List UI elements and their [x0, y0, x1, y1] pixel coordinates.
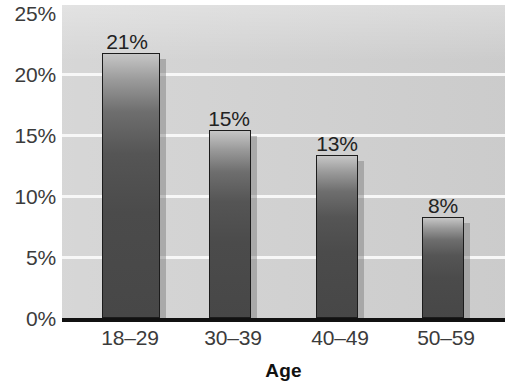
x-tick-label-40-49: 40–49 — [285, 327, 395, 348]
y-tick-label-15: 15% — [0, 125, 56, 146]
bar-30-39[interactable] — [209, 130, 251, 318]
bar-50-59[interactable] — [422, 217, 464, 318]
bar-chart: 25% 20% 15% 10% 5% 0% 21% 15% 13% 8% 18–… — [0, 0, 505, 391]
y-tick-label-0: 0% — [0, 308, 56, 329]
y-tick-label-5: 5% — [0, 247, 56, 268]
x-axis-line — [62, 318, 505, 322]
value-label-50-59: 8% — [388, 195, 498, 216]
x-tick-label-18-29: 18–29 — [75, 327, 185, 348]
bar-40-49[interactable] — [316, 155, 358, 318]
value-label-40-49: 13% — [282, 133, 392, 154]
value-label-18-29: 21% — [72, 31, 182, 52]
x-axis-title: Age — [62, 361, 505, 380]
x-tick-label-30-39: 30–39 — [178, 327, 288, 348]
y-tick-label-25: 25% — [0, 3, 56, 24]
y-tick-label-20: 20% — [0, 64, 56, 85]
x-tick-label-50-59: 50–59 — [391, 327, 501, 348]
bar-18-29[interactable] — [102, 53, 160, 318]
y-tick-label-10: 10% — [0, 186, 56, 207]
value-label-30-39: 15% — [174, 108, 284, 129]
y-axis-labels: 25% 20% 15% 10% 5% 0% — [0, 0, 56, 391]
